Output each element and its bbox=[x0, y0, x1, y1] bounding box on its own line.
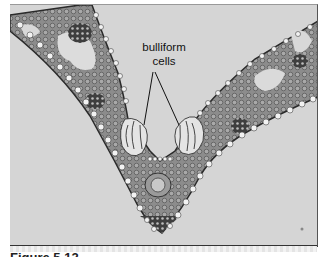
bulliform-cells-left bbox=[121, 118, 148, 155]
bulliform-cells-right bbox=[175, 117, 204, 155]
label-line-2: cells bbox=[134, 54, 194, 68]
bulliform-cells-label: bulliform cells bbox=[134, 40, 194, 68]
annotation-pointers bbox=[144, 72, 179, 125]
label-line-1: bulliform bbox=[134, 40, 194, 54]
figure-caption: Figure 5.12 bbox=[10, 251, 79, 257]
